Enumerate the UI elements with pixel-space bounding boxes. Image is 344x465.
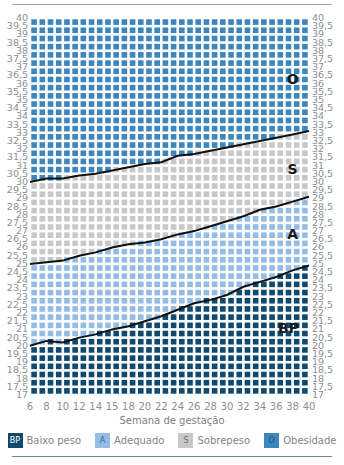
boundary-line-o-s [30,131,309,182]
zone-label-o: O [287,71,299,87]
grid-cells [31,19,307,393]
x-tick: 15 [106,401,119,412]
legend-label: Adequado [114,435,164,446]
legend-label: Baixo peso [27,435,82,446]
legend-label: Sobrepeso [197,435,250,446]
x-tick: 8 [43,401,49,412]
x-tick: 6 [27,401,33,412]
x-axis-label: Semana de gestação [119,415,224,426]
x-tick: 34 [253,401,266,412]
boundary-line-a-bp [30,266,309,346]
zone-label-s: S [288,161,298,177]
zone-label-a: A [287,226,298,242]
x-tick: 10 [56,401,69,412]
legend-item-o: OObesidade [264,433,336,448]
y-tick-right: 17 [312,389,324,400]
x-tick: 36 [270,401,283,412]
legend-item-s: SSobrepeso [178,433,250,448]
legend-label: Obesidade [283,435,336,446]
legend-item-bp: BPBaixo peso [8,433,82,448]
legend-swatch: BP [8,433,23,448]
x-tick: 22 [155,401,168,412]
x-tick: 28 [204,401,217,412]
bmi-gestational-chart: 404039,539,5393938,538,5383837,537,53737… [0,0,344,430]
legend-swatch: O [264,433,279,448]
x-tick: 32 [237,401,250,412]
x-tick: 14 [89,401,102,412]
legend-swatch: S [178,433,193,448]
legend-item-a: AAdequado [95,433,164,448]
boundary-line-s-a [30,197,309,264]
x-tick: 20 [139,401,152,412]
bottom-rule [12,456,332,457]
zone-label-bp: BP [278,320,299,336]
x-tick: 38 [286,401,299,412]
x-tick: 40 [303,401,316,412]
x-tick: 26 [188,401,201,412]
x-tick: 18 [122,401,135,412]
legend-swatch: A [95,433,110,448]
legend: BPBaixo pesoAAdequadoSSobrepesoOObesidad… [0,433,344,448]
y-tick-left: 17 [16,389,28,400]
x-tick: 12 [73,401,86,412]
x-tick: 30 [221,401,234,412]
x-tick: 24 [171,401,184,412]
